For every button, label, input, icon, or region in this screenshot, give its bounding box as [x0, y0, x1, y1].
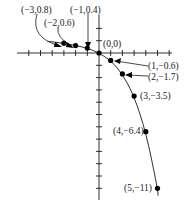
label-m1: (−1,0.4)	[70, 5, 101, 16]
label-m2: (−2,0.6)	[44, 18, 75, 29]
data-point	[108, 58, 113, 63]
label-2: (2,−1.7)	[148, 72, 179, 83]
arrowhead-icon	[125, 72, 132, 78]
data-point	[120, 71, 125, 76]
data-point	[143, 129, 148, 134]
data-point	[96, 50, 101, 55]
point-labels: (−3,0.8) (−2,0.6) (−1,0.4) (0,0) (1,−0.6…	[21, 5, 179, 194]
label-5: (5,−11)	[124, 183, 152, 194]
data-point	[73, 43, 78, 48]
label-4: (4,−6.4)	[113, 126, 144, 137]
leader-1	[116, 61, 148, 66]
data-point	[155, 186, 160, 191]
data-points	[61, 41, 160, 191]
arrowhead-icon	[114, 58, 121, 64]
label-3: (3,−3.5)	[140, 91, 171, 102]
label-origin: (0,0)	[103, 39, 121, 50]
data-point	[132, 93, 137, 98]
axes	[17, 15, 172, 200]
label-1: (1,−0.6)	[148, 61, 179, 72]
function-graph: (−3,0.8) (−2,0.6) (−1,0.4) (0,0) (1,−0.6…	[0, 0, 185, 204]
label-m3: (−3,0.8)	[21, 5, 52, 16]
curve-line	[48, 41, 159, 195]
